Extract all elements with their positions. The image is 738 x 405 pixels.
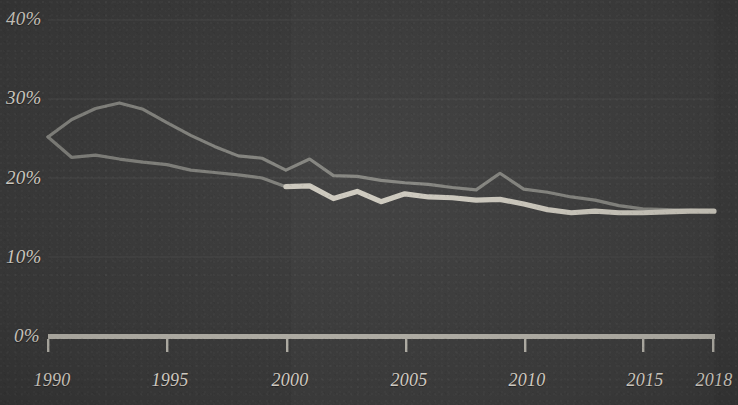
x-axis-label-2015: 2015 — [626, 370, 663, 391]
x-axis-tick-1995 — [166, 339, 168, 352]
x-axis-label-2005: 2005 — [390, 370, 427, 391]
x-axis-tick-1990 — [47, 339, 49, 352]
x-axis-tick-2000 — [286, 339, 288, 352]
y-axis-label-10: 10% — [6, 246, 41, 268]
x-axis-label-2000: 2000 — [271, 370, 308, 391]
x-axis-label-2010: 2010 — [508, 370, 545, 391]
y-axis-label-30: 30% — [6, 87, 41, 109]
series-lines — [48, 103, 714, 213]
y-axis-label-40: 40% — [6, 8, 41, 30]
x-axis-tick-2015 — [642, 339, 644, 352]
series-line-lower-early — [48, 137, 286, 187]
x-axis-baseline — [48, 334, 715, 339]
line-chart-plot — [0, 0, 738, 405]
x-axis-tick-2005 — [405, 339, 407, 352]
x-axis-label-1990: 1990 — [33, 370, 70, 391]
x-axis-label-2018: 2018 — [695, 370, 732, 391]
y-axis-label-0: 0% — [14, 325, 40, 347]
series-line-upper — [48, 103, 714, 211]
x-axis-label-1995: 1995 — [151, 370, 188, 391]
y-axis-label-20: 20% — [6, 167, 41, 189]
x-axis-tick-2018 — [712, 339, 714, 352]
gridlines — [48, 20, 714, 257]
x-axis — [47, 334, 715, 352]
x-axis-tick-2010 — [524, 339, 526, 352]
